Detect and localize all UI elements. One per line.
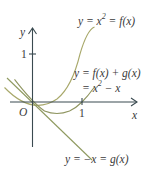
label-g: y = −x = g(x) [64,153,129,166]
curve-g-negative-x [7,78,92,160]
y-axis-label: y [19,26,26,39]
y-tick-label: 1 [21,48,27,60]
label-f: y = x2 = f(x) [77,12,135,28]
origin-label: O [19,106,28,118]
x-tick-label: 1 [79,107,85,119]
label-sum-line2: = x2 − x [82,79,121,94]
curves [5,27,95,160]
function-graph: y x O 1 1 y = x2 = f(x) y = f(x) + g(x) … [0,0,158,177]
label-sum-line1: y = f(x) + g(x) [73,67,141,80]
x-axis-label: x [131,109,138,121]
